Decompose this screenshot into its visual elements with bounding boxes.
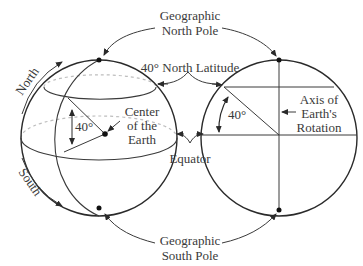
latitude-arrow-right [212, 84, 222, 85]
latitude-back-dashed [44, 75, 156, 87]
equator-brace [178, 134, 202, 143]
latitude-circle-front [44, 87, 156, 99]
south-pole-dot-right [277, 208, 282, 213]
south-direction-label: South [16, 165, 46, 199]
north-pole-dot [97, 58, 102, 63]
south-pole-arrow-left [105, 214, 155, 243]
angle-label-right: 40° [228, 107, 246, 122]
south-pole-arrow-right [222, 214, 276, 243]
axis-label-line2: Earth's [301, 106, 337, 121]
latitude-label: 40° North Latitude [141, 60, 240, 75]
north-pole-dot-right [277, 58, 282, 63]
equator-label: Equator [169, 151, 211, 166]
center-pointer [108, 121, 120, 131]
north-pole-arrow-right [222, 28, 276, 56]
north-pole-arrow-left [104, 28, 155, 55]
meridian [55, 60, 99, 216]
north-pole-label-line2: North Pole [162, 23, 219, 38]
latitude-diagram: Geographic North Pole 40° North Latitude… [0, 0, 363, 266]
radius-to-equator [64, 134, 105, 152]
angle-arrow-right [219, 97, 228, 132]
center-dot [102, 131, 108, 137]
south-pole-label-line2: South Pole [162, 248, 219, 263]
center-label-line2: of the [127, 118, 157, 133]
center-label-line3: Earth [128, 132, 157, 147]
center-label-line1: Center [125, 104, 160, 119]
axis-label-line3: Rotation [297, 120, 342, 135]
north-pole-label-line1: Geographic [160, 8, 221, 23]
globe-cross-section [201, 58, 357, 217]
axis-label-line1: Axis of [300, 92, 339, 107]
angle-label-left: 40° [75, 119, 93, 134]
south-pole-label-line1: Geographic [160, 233, 221, 248]
north-direction-label: North [12, 64, 42, 98]
south-pole-dot [97, 206, 102, 211]
